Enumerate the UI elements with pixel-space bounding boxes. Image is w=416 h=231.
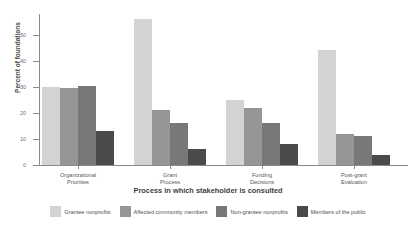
- legend-label: Non-grantee nonprofits: [230, 209, 287, 215]
- bar-group-bars: [226, 14, 298, 165]
- bar-group-bars: [318, 14, 390, 165]
- bar: [188, 149, 206, 165]
- legend-item[interactable]: Non-grantee nonprofits: [216, 206, 287, 217]
- x-axis-category-label: Organizational Priorities: [33, 172, 123, 186]
- y-axis-tick-labels: 01020304050: [0, 0, 32, 231]
- y-axis-tick-label: 30: [20, 84, 26, 90]
- bar: [60, 88, 78, 165]
- legend-label: Grantee nonprofits: [64, 209, 110, 215]
- legend-item[interactable]: Affected community members: [120, 206, 208, 217]
- x-axis-category-label: Post-grant Evaluation: [309, 172, 399, 186]
- legend-label: Members of the public: [311, 209, 366, 215]
- bar: [134, 19, 152, 165]
- legend-swatch-icon: [120, 206, 131, 217]
- legend-item[interactable]: Members of the public: [297, 206, 366, 217]
- bar: [42, 87, 60, 165]
- bar: [170, 123, 188, 165]
- y-axis-tick: [33, 87, 39, 88]
- bar: [262, 123, 280, 165]
- x-axis-tick: [262, 165, 263, 169]
- legend-label: Affected community members: [134, 209, 208, 215]
- y-axis-tick-label: 40: [20, 58, 26, 64]
- bar: [372, 155, 390, 165]
- x-axis-line: [39, 165, 408, 166]
- y-axis-tick: [33, 113, 39, 114]
- x-axis-title: Process in which stakeholder is consulte…: [0, 186, 416, 195]
- bar: [226, 100, 244, 165]
- legend-swatch-icon: [297, 206, 308, 217]
- plot-area: [40, 14, 408, 165]
- legend-swatch-icon: [216, 206, 227, 217]
- legend-swatch-icon: [50, 206, 61, 217]
- x-axis-category-label: Funding Decisions: [217, 172, 307, 186]
- bar: [152, 110, 170, 165]
- bar: [78, 86, 96, 165]
- bar: [318, 50, 336, 165]
- y-axis-tick: [33, 35, 39, 36]
- bar: [96, 131, 114, 165]
- legend-item[interactable]: Grantee nonprofits: [50, 206, 110, 217]
- y-axis-tick-label: 50: [20, 32, 26, 38]
- x-axis-tick: [78, 165, 79, 169]
- bar: [280, 144, 298, 165]
- y-axis-tick-label: 10: [20, 136, 26, 142]
- x-axis-category-label: Grant Process: [125, 172, 215, 186]
- bar-chart: Percent of foundations 01020304050 Proce…: [0, 0, 416, 231]
- y-axis-tick-label: 0: [23, 162, 26, 168]
- y-axis-tick: [33, 139, 39, 140]
- chart-legend: Grantee nonprofitsAffected community mem…: [0, 206, 416, 217]
- x-axis-tick: [170, 165, 171, 169]
- y-axis-tick: [33, 61, 39, 62]
- y-axis-tick: [33, 165, 39, 166]
- bar-group-bars: [42, 14, 114, 165]
- bar-group-bars: [134, 14, 206, 165]
- y-axis-tick-label: 20: [20, 110, 26, 116]
- x-axis-tick: [354, 165, 355, 169]
- bar: [354, 136, 372, 165]
- bar: [336, 134, 354, 165]
- bar: [244, 108, 262, 165]
